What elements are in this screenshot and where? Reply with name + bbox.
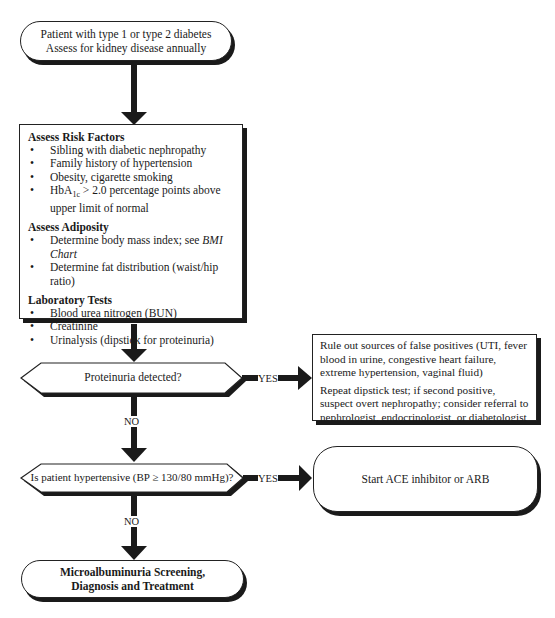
decision-proteinuria-text: Proteinuria detected? [41,371,225,383]
list-item: Blood urea nitrogen (BUN) [28,307,234,320]
arrowhead-icon [121,546,147,560]
final-line-1: Microalbuminuria Screening, [60,565,205,579]
list-item: Sibling with diabetic nephropathy [28,144,234,157]
microalbuminuria-node: Microalbuminuria Screening, Diagnosis an… [21,560,244,598]
adiposity-list: Determine body mass index; see BMI Chart… [28,234,234,288]
list-item: Creatinine [28,320,234,333]
arrowhead-icon [299,465,312,491]
false-positive-text: Rule out sources of false positives (UTI… [320,339,529,380]
risk-factors-heading: Assess Risk Factors [28,130,234,144]
start-line-2: Assess for kidney disease annually [46,41,206,55]
list-item: Determine fat distribution (waist/hip ra… [28,261,234,288]
ace-inhibitor-node: Start ACE inhibitor or ARB [313,446,538,512]
no-label: NO [124,416,139,427]
list-item-hba1c: HbA1c > 2.0 percentage points above uppe… [28,184,234,215]
no-label: NO [124,516,139,527]
arrowhead-icon [121,349,147,362]
lab-tests-list: Blood urea nitrogen (BUN) Creatinine Uri… [28,307,234,347]
yes-label: YES [258,373,278,384]
false-positive-box: Rule out sources of false positives (UTI… [312,334,537,421]
arrowhead-icon [298,366,312,390]
list-item: Family history of hypertension [28,157,234,170]
list-item: Determine body mass index; see BMI Chart [28,234,234,261]
decision-hypertension-text: Is patient hypertensive (BP ≥ 130/80 mmH… [30,471,234,483]
lab-tests-heading: Laboratory Tests [28,293,234,307]
yes-label: YES [258,473,278,484]
list-item: Urinalysis (dipstick for proteinuria) [28,334,234,347]
adiposity-heading: Assess Adiposity [28,220,234,234]
connector-stem [131,62,137,114]
start-node: Patient with type 1 or type 2 diabetes A… [20,21,232,61]
ace-inhibitor-text: Start ACE inhibitor or ARB [362,472,490,486]
repeat-dipstick-text: Repeat dipstick test; if second positive… [320,384,529,425]
start-line-1: Patient with type 1 or type 2 diabetes [41,27,212,41]
final-line-2: Diagnosis and Treatment [71,579,194,593]
assessment-box: Assess Risk Factors Sibling with diabeti… [19,124,243,319]
arrowhead-icon [121,448,147,462]
risk-factors-list: Sibling with diabetic nephropathy Family… [28,144,234,215]
list-item: Obesity, cigarette smoking [28,171,234,184]
